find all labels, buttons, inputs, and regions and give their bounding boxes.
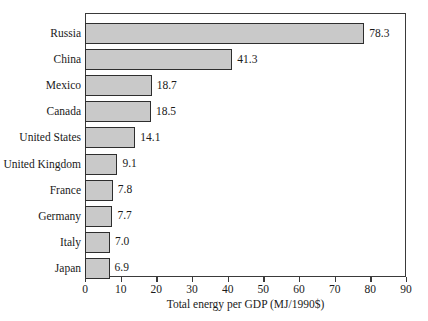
category-label: Russia: [0, 23, 81, 44]
bar-row: 18.7: [85, 75, 406, 96]
bar-value-label: 7.0: [115, 237, 129, 249]
category-axis-labels: RussiaChinaMexicoCanadaUnited StatesUnit…: [0, 13, 81, 277]
bar: [85, 180, 113, 201]
x-axis-tick: [121, 277, 122, 282]
bar: [85, 101, 151, 122]
x-axis-tick-label: 20: [151, 284, 163, 296]
x-axis-tick: [192, 277, 193, 282]
bar-chart-figure: RussiaChinaMexicoCanadaUnited StatesUnit…: [0, 0, 428, 321]
bar-row: 6.9: [85, 258, 406, 279]
bar-row: 9.1: [85, 154, 406, 175]
x-axis-tick: [406, 277, 407, 282]
x-axis-tick-label: 0: [82, 284, 88, 296]
x-axis-tick: [335, 277, 336, 282]
category-label: United Kingdom: [0, 154, 81, 175]
bar-value-label: 6.9: [115, 263, 129, 275]
x-axis-tick: [156, 277, 157, 282]
bar-value-label: 9.1: [122, 158, 136, 170]
x-axis-tick: [228, 277, 229, 282]
bar-value-label: 14.1: [140, 132, 160, 144]
bar-row: 7.0: [85, 232, 406, 253]
bar-value-label: 78.3: [369, 28, 389, 40]
bar: [85, 232, 110, 253]
x-axis-tick-label: 50: [258, 284, 270, 296]
bar: [85, 23, 364, 44]
x-axis-tick: [85, 277, 86, 282]
category-label: Mexico: [0, 75, 81, 96]
bar-row: 14.1: [85, 127, 406, 148]
bars-layer: 78.341.318.718.514.19.17.87.77.06.9: [85, 13, 406, 277]
bar-row: 41.3: [85, 49, 406, 70]
x-axis-tick-label: 90: [400, 284, 412, 296]
bar: [85, 154, 117, 175]
bar: [85, 49, 232, 70]
category-label: Italy: [0, 232, 81, 253]
x-axis-tick-label: 60: [293, 284, 305, 296]
x-axis-tick: [299, 277, 300, 282]
x-axis-tick: [263, 277, 264, 282]
x-axis-tick-label: 30: [186, 284, 198, 296]
bar-row: 18.5: [85, 101, 406, 122]
bar: [85, 206, 112, 227]
x-axis-title: Total energy per GDP (MJ/1990$): [85, 299, 406, 311]
bar-value-label: 41.3: [237, 54, 257, 66]
category-label: China: [0, 49, 81, 70]
x-axis-tick: [370, 277, 371, 282]
category-label: France: [0, 180, 81, 201]
bar-row: 7.7: [85, 206, 406, 227]
category-label: Canada: [0, 101, 81, 122]
bar-row: 7.8: [85, 180, 406, 201]
category-label: United States: [0, 127, 81, 148]
x-axis-tick-label: 80: [365, 284, 377, 296]
bar-value-label: 18.7: [157, 80, 177, 92]
category-label: Japan: [0, 258, 81, 279]
bar: [85, 75, 152, 96]
bar-value-label: 18.5: [156, 106, 176, 118]
x-axis-tick-label: 70: [329, 284, 341, 296]
x-axis-tick-label: 40: [222, 284, 234, 296]
bar-row: 78.3: [85, 23, 406, 44]
bar-value-label: 7.8: [118, 184, 132, 196]
category-label: Germany: [0, 206, 81, 227]
x-axis-tick-label: 10: [115, 284, 127, 296]
bar-value-label: 7.7: [117, 210, 131, 222]
bar: [85, 127, 135, 148]
bar: [85, 258, 110, 279]
